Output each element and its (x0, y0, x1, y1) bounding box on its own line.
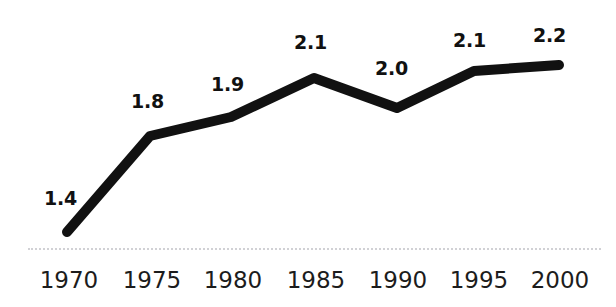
x-axis-line (28, 248, 601, 252)
x-tick-label-1985: 1985 (276, 266, 356, 294)
x-axis-tick-labels: 1970197519801985199019952000 (0, 266, 616, 304)
data-label-1970: 1.4 (44, 189, 77, 208)
data-label-2000: 2.2 (533, 26, 566, 45)
plot-area: 1.41.81.92.12.02.12.2 (0, 0, 616, 256)
x-tick-label-1990: 1990 (358, 266, 438, 294)
x-tick-label-1975: 1975 (112, 266, 192, 294)
data-label-1975: 1.8 (131, 92, 164, 111)
line-chart: 1.41.81.92.12.02.12.2 197019751980198519… (0, 0, 616, 307)
data-label-1980: 1.9 (211, 75, 244, 94)
x-tick-label-1980: 1980 (193, 266, 273, 294)
x-tick-label-2000: 2000 (520, 266, 600, 294)
data-label-1990: 2.0 (375, 59, 408, 78)
x-tick-label-1970: 1970 (29, 266, 109, 294)
data-label-1995: 2.1 (453, 31, 486, 50)
x-tick-label-1995: 1995 (439, 266, 519, 294)
data-label-1985: 2.1 (294, 33, 327, 52)
